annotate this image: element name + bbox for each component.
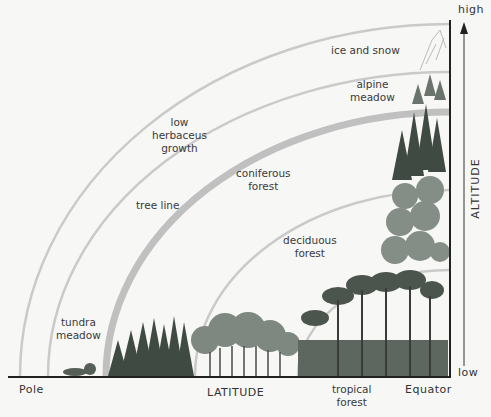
label-line: forest (283, 247, 337, 260)
label-line: tropical (332, 383, 371, 396)
diagram-canvas (0, 0, 491, 417)
label-tree-line: tree line (136, 199, 179, 212)
label-line: tundra (56, 316, 101, 329)
label-ice-and-snow: ice and snow (331, 44, 400, 57)
label-deciduous-forest: deciduous forest (283, 234, 337, 260)
label-tropical-forest: tropical forest (332, 383, 371, 409)
conifer-trees-icon (108, 316, 194, 376)
label-line: meadow (56, 329, 101, 342)
label-line: meadow (350, 91, 395, 104)
label-line: forest (236, 180, 291, 193)
label-tundra-meadow: tundra meadow (56, 316, 101, 342)
x-axis-right-label: Equator (405, 383, 452, 396)
label-alpine-meadow: alpine meadow (350, 78, 395, 104)
label-line: growth (152, 142, 207, 155)
x-axis-title: LATITUDE (207, 386, 264, 399)
label-line: herbaceus (152, 129, 207, 142)
y-axis-top-label: high (458, 3, 484, 16)
altitude-arrow-up-icon (460, 22, 468, 34)
label-low-herbaceus-growth: low herbaceus growth (152, 116, 207, 155)
y-axis-bottom-label: low (458, 366, 478, 379)
label-coniferous-forest: coniferous forest (236, 167, 291, 193)
label-line: forest (332, 396, 371, 409)
label-line: low (152, 116, 207, 129)
tropical-trees-icon (298, 270, 448, 376)
y-axis-title: ALTITUDE (469, 154, 482, 224)
x-axis-left-label: Pole (19, 383, 44, 396)
label-line: alpine (350, 78, 395, 91)
label-line: deciduous (283, 234, 337, 247)
label-line: coniferous (236, 167, 291, 180)
